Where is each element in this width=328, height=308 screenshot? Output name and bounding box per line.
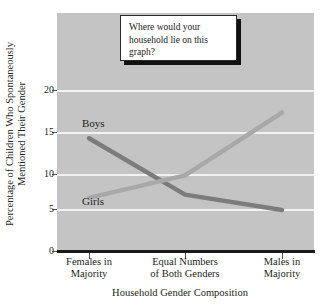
callout-box: Where would your household lie on this g… — [120, 15, 237, 61]
chart-figure: 20 15 10 5 0 Percentage of Children Who … — [0, 0, 328, 308]
series-label-boys: Boys — [82, 117, 105, 129]
series-label-girls: Girls — [82, 195, 104, 207]
callout-text: Where would your household lie on this g… — [129, 21, 233, 59]
callout-body: Where would your household lie on this g… — [120, 15, 237, 61]
